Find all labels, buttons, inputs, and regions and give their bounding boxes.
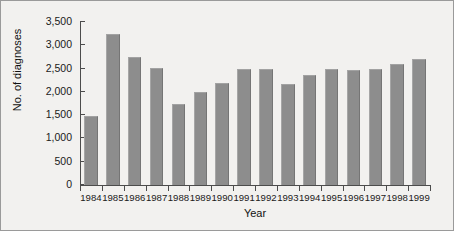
bar-slot xyxy=(299,22,321,185)
x-axis-tick-labels: 1984198519861987198819891990199119921993… xyxy=(80,191,430,205)
bar-series xyxy=(80,22,430,185)
x-tick-label-1990: 1990 xyxy=(211,191,233,205)
x-tick-label-1994: 1994 xyxy=(299,191,321,205)
y-tick-label: 3,000 xyxy=(46,38,72,51)
y-tick-label: 1,000 xyxy=(46,131,72,144)
x-tick-label-1988: 1988 xyxy=(168,191,190,205)
x-tick-label-1996: 1996 xyxy=(343,191,365,205)
x-tick-label-1987: 1987 xyxy=(146,191,168,205)
bar-slot xyxy=(321,22,343,185)
x-tick-label-1985: 1985 xyxy=(102,191,124,205)
x-tick-label-1998: 1998 xyxy=(386,191,408,205)
bar-slot xyxy=(211,22,233,185)
y-axis-title: No. of diagnoses xyxy=(11,10,23,130)
bar-slot xyxy=(277,22,299,185)
y-tick-label: 500 xyxy=(54,155,72,168)
bar-1996[interactable] xyxy=(347,70,361,185)
x-tick-label-1989: 1989 xyxy=(189,191,211,205)
bar-1992[interactable] xyxy=(259,69,273,185)
bar-1984[interactable] xyxy=(84,116,98,185)
x-tick-label-1986: 1986 xyxy=(124,191,146,205)
x-tick-label-1999: 1999 xyxy=(408,191,430,205)
bar-1999[interactable] xyxy=(412,59,426,185)
bar-slot xyxy=(80,22,102,185)
bar-1985[interactable] xyxy=(106,34,120,185)
bar-1989[interactable] xyxy=(194,92,208,185)
x-tick-mark xyxy=(430,186,431,191)
bar-slot xyxy=(343,22,365,185)
bar-1997[interactable] xyxy=(369,69,383,185)
y-tick-label: 1,500 xyxy=(46,108,72,121)
x-tick-label-1995: 1995 xyxy=(321,191,343,205)
bar-1991[interactable] xyxy=(237,69,251,185)
bar-1990[interactable] xyxy=(215,83,229,185)
bar-slot xyxy=(168,22,190,185)
x-tick-label-1992: 1992 xyxy=(255,191,277,205)
x-tick-label-1997: 1997 xyxy=(364,191,386,205)
bar-slot xyxy=(146,22,168,185)
y-tick-label: 2,000 xyxy=(46,85,72,98)
bar-slot xyxy=(233,22,255,185)
bar-1995[interactable] xyxy=(325,69,339,185)
bar-1994[interactable] xyxy=(303,75,317,185)
bar-slot xyxy=(124,22,146,185)
x-tick-label-1991: 1991 xyxy=(233,191,255,205)
bar-1987[interactable] xyxy=(150,68,164,185)
bar-slot xyxy=(386,22,408,185)
bar-slot xyxy=(189,22,211,185)
bar-slot xyxy=(408,22,430,185)
plot-area: 05001,0001,5002,0002,5003,0003,500 xyxy=(80,22,430,185)
y-tick-label: 3,500 xyxy=(46,15,72,28)
bar-slot xyxy=(102,22,124,185)
bar-1986[interactable] xyxy=(128,57,142,185)
bar-1993[interactable] xyxy=(281,84,295,185)
bar-slot xyxy=(364,22,386,185)
bar-1988[interactable] xyxy=(172,104,186,185)
bar-slot xyxy=(255,22,277,185)
bar-1998[interactable] xyxy=(390,64,404,185)
y-tick-label: 2,500 xyxy=(46,62,72,75)
x-tick-label-1993: 1993 xyxy=(277,191,299,205)
y-tick-label: 0 xyxy=(66,178,72,191)
chart-figure: No. of diagnoses 05001,0001,5002,0002,50… xyxy=(0,0,454,231)
x-axis-title: Year xyxy=(80,207,430,219)
x-tick-label-1984: 1984 xyxy=(80,191,102,205)
